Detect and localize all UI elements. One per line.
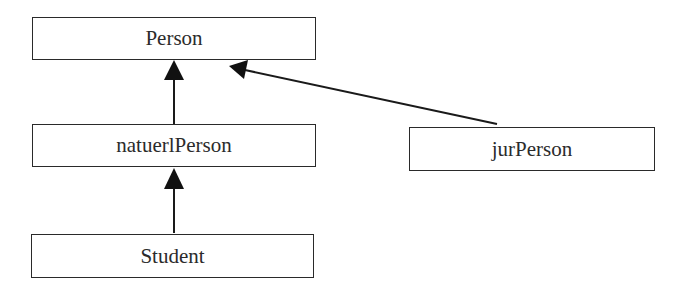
edge-student-to-natuerlperson [164, 168, 184, 233]
class-box-student: Student [31, 234, 314, 278]
class-label-jurperson: jurPerson [492, 137, 573, 162]
class-box-natuerlperson: natuerlPerson [32, 124, 316, 167]
arrowhead-icon [229, 60, 248, 79]
class-label-student: Student [140, 244, 204, 269]
edge-natuerlperson-to-person [164, 60, 184, 124]
class-label-natuerlperson: natuerlPerson [116, 133, 231, 158]
arrowhead-icon [164, 168, 184, 189]
class-box-person: Person [32, 17, 316, 60]
class-box-jurperson: jurPerson [409, 127, 655, 171]
arrowhead-icon [164, 60, 184, 80]
class-label-person: Person [145, 26, 202, 51]
edge-jurperson-to-person [229, 60, 497, 124]
